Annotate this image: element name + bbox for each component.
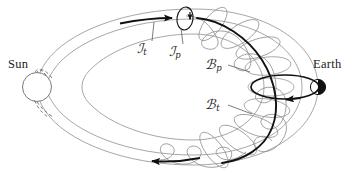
- leader-Bt: [228, 105, 252, 114]
- sun-body: [23, 73, 52, 102]
- flux-rope-diagram-svg: [0, 0, 360, 174]
- poloidal-current-subscript: p: [175, 50, 180, 60]
- earth-label: Earth: [313, 58, 342, 71]
- sun-label: Sun: [8, 58, 28, 71]
- toroidal-current-label: ℐt: [137, 42, 147, 57]
- bold-poloidal-ring: [251, 75, 319, 99]
- toroidal-field-subscript: t: [216, 103, 219, 113]
- leader-Ip: [181, 28, 183, 44]
- poloidal-field-subscript: p: [216, 63, 221, 73]
- sun-disc: [23, 73, 52, 102]
- toroidal-current-subscript: t: [143, 47, 146, 57]
- leader-Bp: [228, 65, 250, 72]
- poloidal-field-label: ℬp: [205, 58, 222, 73]
- toroidal-field-label: ℬt: [205, 98, 220, 113]
- toroidal-field-symbol: ℬ: [205, 96, 216, 112]
- small-poloidal-ring: [175, 6, 194, 31]
- poloidal-field-symbol: ℬ: [205, 56, 216, 72]
- dashed-lower: [35, 101, 49, 118]
- earth-body: [310, 79, 325, 94]
- poloidal-current-label: ℐp: [169, 45, 181, 60]
- poloidal-field-loops: [194, 3, 294, 172]
- figure-canvas: Sun Earth ℐt ℐp ℬp ℬt: [0, 0, 360, 174]
